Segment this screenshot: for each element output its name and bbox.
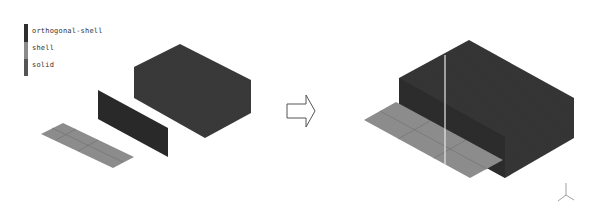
diagram-canvas — [0, 0, 602, 210]
xyz-axis-icon — [558, 183, 574, 201]
right-arrow-icon — [287, 95, 315, 127]
before-group — [41, 44, 251, 168]
after-group — [364, 40, 574, 178]
